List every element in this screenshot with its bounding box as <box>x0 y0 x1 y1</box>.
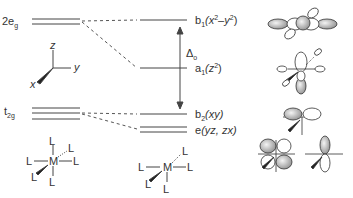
ligand-back-r: L <box>182 145 188 157</box>
axes-icon <box>37 50 71 84</box>
ligand-front-r: L <box>145 178 151 190</box>
ligand-bottom: L <box>49 176 55 188</box>
axis-z-label: z <box>49 39 56 51</box>
ligand-right-r: L <box>187 161 193 173</box>
orbital-b1-icon <box>268 6 337 41</box>
orbital-e-yz-icon <box>258 139 295 172</box>
ligand-left-r: L <box>138 161 144 173</box>
level-e <box>140 127 187 132</box>
axis-x-label: x <box>29 78 36 90</box>
label-2eg: 2eg <box>2 15 18 30</box>
axis-y-label: y <box>73 61 81 73</box>
label-b2: b2(xy) <box>195 108 224 122</box>
metal-center: M <box>49 155 58 167</box>
label-e: e(yz, zx) <box>195 124 237 136</box>
label-delta-o: Δo <box>186 47 197 61</box>
ligand-left: L <box>26 155 32 167</box>
level-2eg <box>32 19 80 24</box>
orbital-b2-icon <box>283 108 321 135</box>
orbital-a1-icon <box>277 48 325 94</box>
ligand-front: L <box>31 171 37 183</box>
label-a1: a1(z2) <box>195 62 222 76</box>
orbital-e-zx-icon <box>305 136 343 172</box>
mo-diagram: 2eg t2g b1(x2–y2) a1(z2) b2(xy) e(yz, zx… <box>0 0 353 198</box>
metal-center-r: M <box>163 161 172 173</box>
ligand-top: L <box>49 135 55 147</box>
correlation-lines <box>82 20 137 129</box>
label-b1: b1(x2–y2) <box>195 14 237 28</box>
ligand-bottom-r: L <box>163 183 169 195</box>
level-t2g <box>32 108 80 119</box>
label-t2g: t2g <box>4 105 15 120</box>
ligand-back: L <box>68 142 74 154</box>
ligand-right: L <box>73 155 79 167</box>
